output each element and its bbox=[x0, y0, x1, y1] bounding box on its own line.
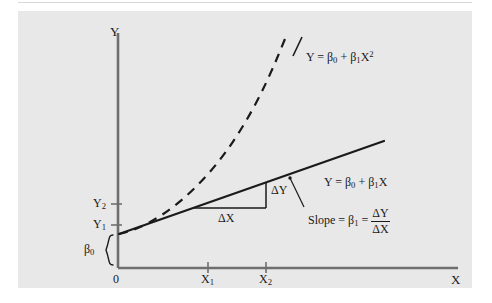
x-axis-label: X bbox=[451, 273, 460, 286]
beta0-sub: 0 bbox=[90, 247, 94, 257]
figure-panel: Y X 0 Y1 Y2 β0 X1 X2 Y = β0 + β1X2 bbox=[18, 11, 472, 288]
slope-prefix: Slope = bbox=[308, 213, 348, 227]
quadratic-eq-lhs: Y = bbox=[306, 50, 327, 64]
slope-leader-line bbox=[290, 178, 304, 207]
origin-label: 0 bbox=[113, 273, 119, 285]
quadratic-equation-label: Y = β0 + β1X2 bbox=[306, 50, 374, 65]
slope-fraction-denominator: ΔX bbox=[371, 222, 389, 236]
linear-eq-lhs: Y = bbox=[324, 175, 345, 189]
top-divider-rule bbox=[18, 2, 472, 3]
slope-fraction-numerator: ΔY bbox=[371, 207, 389, 222]
y-tick-label-Y1-sub: 1 bbox=[102, 222, 106, 232]
y-tick-label-Y2-sub: 2 bbox=[102, 201, 106, 211]
x-tick-label-X1: X1 bbox=[201, 273, 214, 287]
y-tick-label-Y2-base: Y bbox=[93, 196, 102, 210]
slope-leader-dot bbox=[288, 176, 291, 179]
linear-equation-label: Y = β0 + β1X bbox=[324, 176, 387, 190]
y-tick-label-Y1: Y1 bbox=[93, 218, 106, 232]
slope-annotation-label: Slope = β1 = ΔYΔX bbox=[308, 207, 390, 235]
figure-root: Y X 0 Y1 Y2 β0 X1 X2 Y = β0 + β1X2 bbox=[0, 0, 492, 303]
quadratic-eq-plus: + bbox=[337, 50, 350, 64]
linear-eq-x: X bbox=[379, 175, 388, 189]
y-tick-label-Y2: Y2 bbox=[93, 197, 106, 211]
delta-y-label: ΔY bbox=[271, 184, 287, 196]
x-tick-label-X2: X2 bbox=[259, 273, 272, 287]
beta0-brace bbox=[106, 235, 113, 265]
y-tick-label-Y1-base: Y bbox=[93, 217, 102, 231]
x-tick-label-X2-base: X bbox=[259, 272, 268, 286]
delta-x-label: ΔX bbox=[218, 212, 234, 224]
x-tick-label-X1-base: X bbox=[201, 272, 210, 286]
beta0-intercept-label: β0 bbox=[84, 243, 94, 257]
linear-eq-plus: + bbox=[355, 175, 368, 189]
x-tick-label-X1-sub: 1 bbox=[210, 277, 214, 287]
slope-equals: = bbox=[359, 213, 372, 227]
x-tick-label-X2-sub: 2 bbox=[268, 277, 272, 287]
slope-fraction: ΔYΔX bbox=[371, 207, 389, 235]
y-axis-label: Y bbox=[110, 25, 119, 38]
quadratic-label-leader bbox=[293, 37, 302, 56]
quadratic-eq-exponent: 2 bbox=[369, 49, 373, 59]
quadratic-eq-x: X bbox=[361, 50, 370, 64]
